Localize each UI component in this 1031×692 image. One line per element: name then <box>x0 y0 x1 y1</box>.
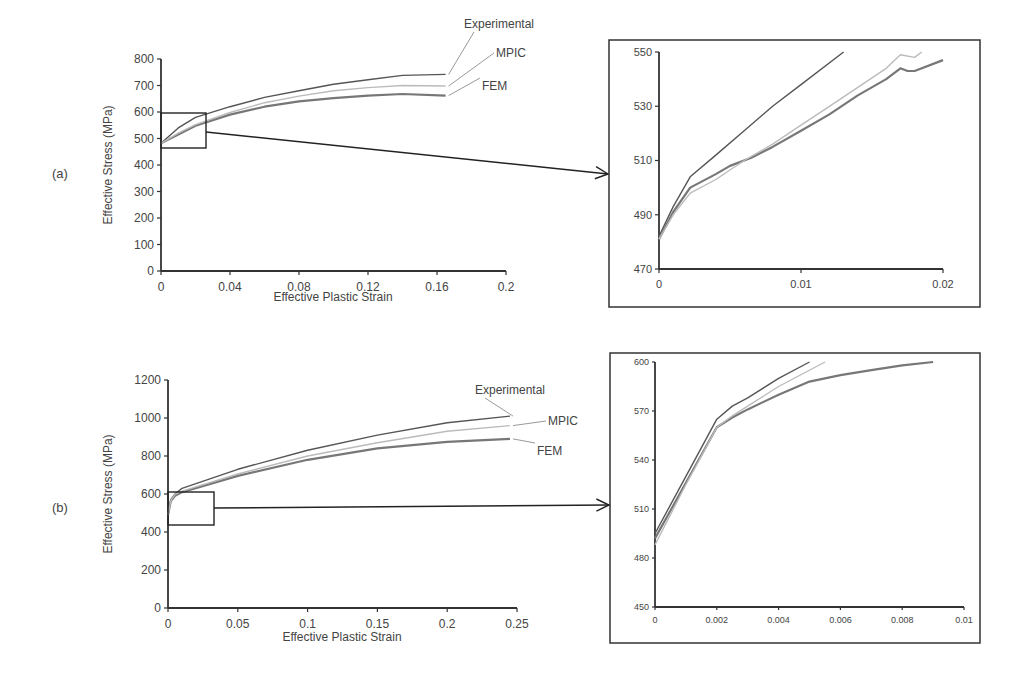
x-tick-label: 0.15 <box>366 617 390 631</box>
figure-canvas: (a) (b) 010020030040050060070080000.040.… <box>0 0 1031 692</box>
panel-label-a: (a) <box>52 166 68 181</box>
zoom-arrow <box>214 505 609 508</box>
y-tick-label: 500 <box>134 132 154 146</box>
y-tick-label: 300 <box>134 185 154 199</box>
x-tick-label: 0.25 <box>505 617 529 631</box>
series-label-experimental: Experimental <box>464 17 534 31</box>
x-tick-label: 0.16 <box>425 280 449 294</box>
series-line-experimental <box>659 52 844 236</box>
x-axis-title: Effective Plastic Strain <box>273 290 392 304</box>
y-tick-label: 0 <box>147 264 154 278</box>
x-tick-label: 0.05 <box>226 617 250 631</box>
y-tick-label: 200 <box>141 563 161 577</box>
y-tick-label: 510 <box>634 154 652 166</box>
y-tick-label: 0 <box>154 601 161 615</box>
series-line-fem <box>161 94 446 143</box>
panel-label-b: (b) <box>52 500 68 515</box>
series-label-experimental: Experimental <box>475 383 545 397</box>
x-tick-label: 0 <box>652 615 657 625</box>
x-tick-label: 0.04 <box>218 280 242 294</box>
y-tick-label: 470 <box>634 263 652 275</box>
chart-a-inset: 47049051053055000.010.02 <box>609 40 980 307</box>
x-tick-label: 0.1 <box>299 617 316 631</box>
inset-frame <box>609 40 980 307</box>
y-tick-label: 550 <box>634 46 652 58</box>
y-tick-label: 600 <box>634 357 649 367</box>
x-tick-label: 0.01 <box>790 278 811 290</box>
series-label-fem: FEM <box>482 79 507 93</box>
series-label-fem: FEM <box>537 444 562 458</box>
y-tick-label: 600 <box>141 487 161 501</box>
y-tick-label: 480 <box>634 553 649 563</box>
y-tick-label: 570 <box>634 406 649 416</box>
y-axis-title: Effective Stress (MPa) <box>101 105 115 224</box>
x-tick-label: 0.2 <box>439 617 456 631</box>
zoom-callout-b <box>168 492 609 525</box>
series-line-fem <box>655 362 933 538</box>
chart-a-main: 010020030040050060070080000.040.080.120.… <box>101 17 534 304</box>
y-tick-label: 540 <box>634 455 649 465</box>
x-tick-label: 0 <box>165 617 172 631</box>
x-tick-label: 0.004 <box>767 615 790 625</box>
y-tick-label: 450 <box>634 602 649 612</box>
y-tick-label: 600 <box>134 105 154 119</box>
chart-b-main: 02004006008001000120000.050.10.150.20.25… <box>101 373 578 644</box>
x-tick-label: 0.2 <box>498 280 515 294</box>
series-line-mpic <box>655 362 825 545</box>
x-tick-label: 0 <box>158 280 165 294</box>
y-axis-title: Effective Stress (MPa) <box>101 434 115 553</box>
x-tick-label: 0.006 <box>829 615 852 625</box>
y-tick-label: 510 <box>634 504 649 514</box>
zoom-callout-a <box>161 113 608 179</box>
y-tick-label: 800 <box>134 52 154 66</box>
x-tick-label: 0 <box>656 278 662 290</box>
series-line-experimental <box>655 362 810 534</box>
series-line-experimental <box>161 74 446 143</box>
series-line-fem <box>659 60 943 239</box>
y-tick-label: 490 <box>634 209 652 221</box>
svg-text:(a): (a) <box>52 166 68 181</box>
y-tick-label: 700 <box>134 79 154 93</box>
zoom-arrow <box>206 132 608 174</box>
y-tick-label: 530 <box>634 100 652 112</box>
series-line-mpic <box>168 426 510 515</box>
y-tick-label: 1200 <box>134 373 161 387</box>
chart-b-inset: 45048051054057060000.0020.0040.0060.0080… <box>610 353 980 643</box>
x-axis-title: Effective Plastic Strain <box>282 630 401 644</box>
series-label-mpic: MPIC <box>548 414 578 428</box>
x-tick-label: 0.008 <box>891 615 914 625</box>
x-tick-label: 0.01 <box>955 615 973 625</box>
inset-frame <box>610 353 980 643</box>
svg-text:(b): (b) <box>52 500 68 515</box>
y-tick-label: 400 <box>134 158 154 172</box>
x-tick-label: 0.02 <box>932 278 953 290</box>
series-label-mpic: MPIC <box>496 46 526 60</box>
x-tick-label: 0.002 <box>706 615 729 625</box>
y-tick-label: 400 <box>141 525 161 539</box>
y-tick-label: 800 <box>141 449 161 463</box>
y-tick-label: 100 <box>134 238 154 252</box>
y-tick-label: 1000 <box>134 411 161 425</box>
y-tick-label: 200 <box>134 211 154 225</box>
